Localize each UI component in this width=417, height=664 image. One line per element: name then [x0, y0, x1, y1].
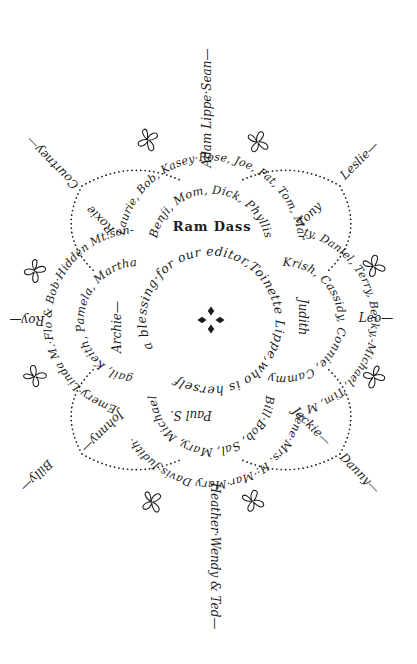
- spoke-e-label: Leo—: [358, 311, 393, 325]
- spoke-ne-label: Leslie—: [337, 138, 382, 183]
- calligraphy-blessing-artwork: a blessing·for our editor,Toinette Lippe…: [0, 0, 417, 664]
- motto-ring: a blessing·for our editor,Toinette Lippe…: [134, 243, 288, 398]
- spoke-nw-label: Courtney—: [23, 134, 81, 192]
- spoke-n-label: Adam Lippe·Sean—: [200, 49, 214, 169]
- flower-ornament-top-left: [137, 129, 159, 152]
- outer-ring-top-names: Laurie, Bob, Kasey·Rose, Joe, Pat, Tom, …: [0, 0, 309, 241]
- svg-text:Laurie, Bob, Kasey·Rose, Joe,: Laurie, Bob, Kasey·Rose, Joe, Pat, Tom, …: [0, 0, 309, 241]
- spoke-s-label: Heather·Wendy & Ted—: [208, 482, 222, 630]
- center-diamond-ornament: [197, 306, 224, 333]
- svg-text:Bill·Bob, Sal, Mary, Michael: Bill·Bob, Sal, Mary, Michael: [145, 394, 277, 459]
- lobe-bottom-center-name: Paul S.: [170, 408, 213, 422]
- spoke-sw-label: Billy—: [18, 456, 56, 494]
- lobe-left-center-name: Archie—: [110, 301, 124, 354]
- artwork-svg: a blessing·for our editor,Toinette Lippe…: [0, 0, 417, 664]
- flower-ornament-left-lower: [23, 364, 48, 388]
- spoke-w-label: Roy—: [9, 313, 45, 327]
- lobe-left-names: gail, Keith, Pamela, Martha: [73, 255, 138, 387]
- lobe-top-center-name: Ram Dass: [173, 219, 252, 234]
- flower-ornament-top-right: [248, 131, 269, 153]
- petal-ne-name: Tony: [294, 199, 324, 229]
- spoke-se-label: Danny—: [336, 449, 383, 496]
- svg-text:gail, Keith, Pamela, Martha: gail, Keith, Pamela, Martha: [73, 255, 138, 387]
- petal-sw-name: Johnny—: [79, 406, 129, 456]
- motto-ring-text: a blessing·for our editor,Toinette Lippe…: [134, 243, 288, 398]
- lobe-right-center-name: Judith: [296, 296, 310, 336]
- flower-ornament-left-upper: [23, 259, 47, 284]
- flower-ornament-bottom-left: [142, 492, 161, 513]
- flower-ornament-bottom-right: [242, 489, 265, 513]
- lobe-bottom-names: Bill·Bob, Sal, Mary, Michael: [145, 394, 277, 459]
